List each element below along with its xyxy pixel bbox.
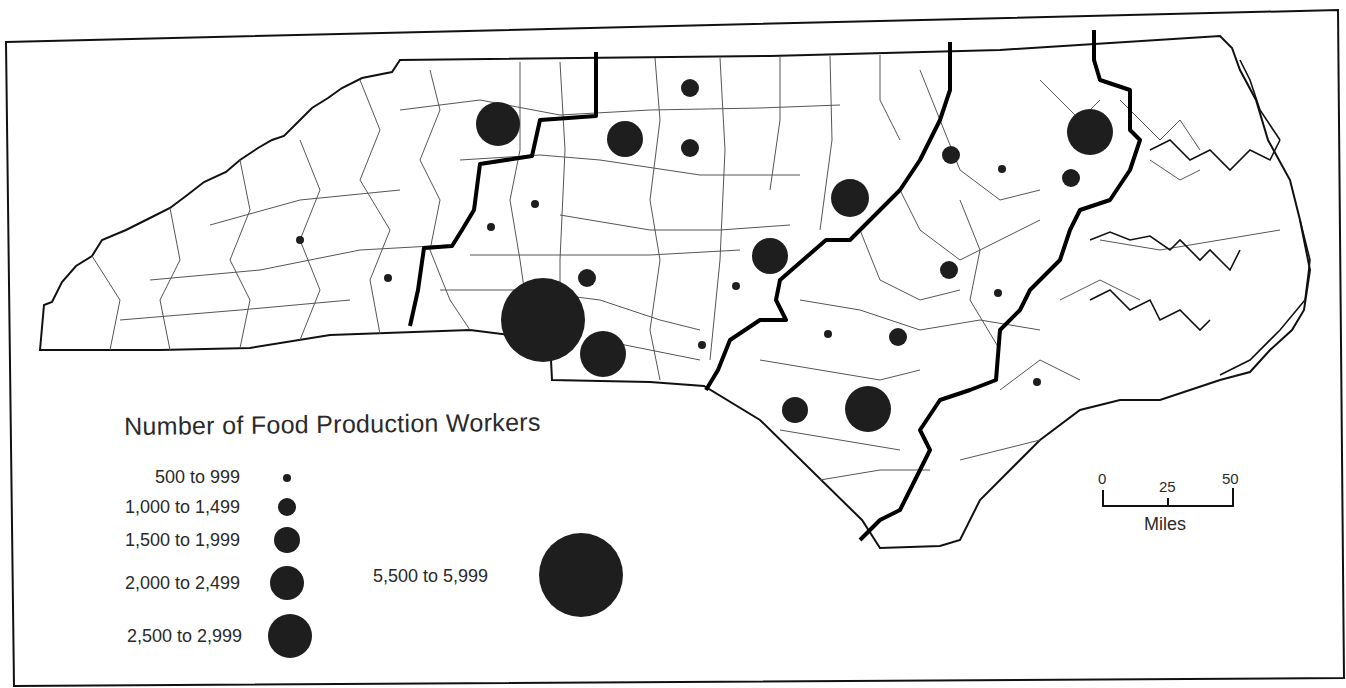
legend-label-2000-2499: 2,000 to 2,499 — [80, 573, 240, 594]
legend-symbol-2500-2999 — [268, 614, 312, 658]
symbol-2500-2999 — [476, 102, 520, 146]
symbol-1000-1499 — [681, 79, 699, 97]
scale-tick-25: 25 — [1159, 478, 1176, 495]
symbol-1000-1499 — [940, 261, 958, 279]
scale-unit: Miles — [1144, 514, 1186, 535]
scale-tick-50: 50 — [1222, 470, 1239, 487]
symbol-2500-2999 — [1067, 109, 1113, 155]
symbol-1000-1499 — [681, 139, 699, 157]
legend-label-1000-1499: 1,000 to 1,499 — [80, 497, 240, 518]
symbol-2000-2499 — [607, 121, 643, 157]
symbol-1000-1499 — [578, 269, 596, 287]
symbol-2500-2999 — [845, 386, 891, 432]
symbol-500-999 — [531, 200, 539, 208]
legend-symbol-5500-5999 — [539, 533, 623, 617]
symbol-500-999 — [296, 236, 304, 244]
scale-tick-0: 0 — [1098, 470, 1106, 487]
symbol-2500-2999 — [580, 331, 626, 377]
legend-label-500-999: 500 to 999 — [80, 467, 240, 488]
symbol-500-999 — [998, 165, 1006, 173]
symbol-500-999 — [384, 274, 392, 282]
symbol-500-999 — [994, 289, 1002, 297]
symbol-500-999 — [732, 282, 740, 290]
symbol-5500-5999 — [501, 278, 585, 362]
legend-title: Number of Food Production Workers — [124, 408, 541, 441]
legend-symbol-2000-2499 — [270, 566, 304, 600]
symbol-500-999 — [698, 341, 706, 349]
legend-symbol-500-999 — [283, 474, 291, 482]
legend-symbol-1500-1999 — [274, 527, 300, 553]
symbol-500-999 — [487, 223, 495, 231]
symbol-1000-1499 — [1062, 169, 1080, 187]
legend-label-2500-2999: 2,500 to 2,999 — [82, 626, 242, 647]
legend-label-5500-5999: 5,500 to 5,999 — [328, 566, 488, 587]
symbol-1000-1499 — [942, 146, 960, 164]
legend-label-1500-1999: 1,500 to 1,999 — [80, 530, 240, 551]
legend-symbol-1000-1499 — [278, 498, 296, 516]
symbol-500-999 — [824, 330, 832, 338]
symbol-1500-1999 — [782, 397, 808, 423]
symbol-2000-2499 — [752, 238, 788, 274]
symbol-500-999 — [1033, 378, 1041, 386]
symbol-1000-1499 — [889, 328, 907, 346]
symbol-2000-2499 — [831, 179, 869, 217]
